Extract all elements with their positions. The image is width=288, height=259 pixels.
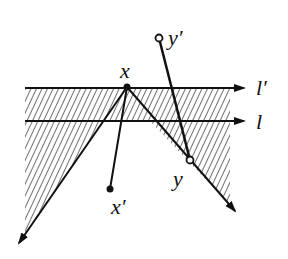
diagram-svg: x y′ l′ l y x′ <box>0 0 288 259</box>
diagram-canvas: x y′ l′ l y x′ <box>0 0 288 259</box>
point-y-prime <box>156 35 163 42</box>
shaded-band <box>25 88 230 121</box>
point-y <box>187 157 194 164</box>
label-l-prime: l′ <box>256 75 268 100</box>
label-y: y <box>171 166 183 191</box>
label-y-prime: y′ <box>166 25 184 50</box>
label-x-prime: x′ <box>110 194 127 219</box>
label-x: x <box>119 58 130 83</box>
label-l: l <box>256 109 262 134</box>
point-x <box>124 84 131 91</box>
point-x-prime <box>107 186 114 193</box>
